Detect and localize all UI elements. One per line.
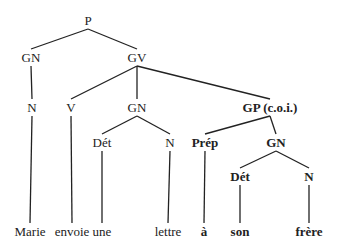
word-w1: Marie — [14, 224, 45, 239]
syntax-tree: PGNGVNVGNGP (c.o.i.)DétNPrépGNDétNMariee… — [0, 0, 343, 248]
word-w7: frère — [295, 224, 322, 239]
tree-edge-gv-gp — [137, 66, 270, 99]
node-n2: N — [165, 135, 175, 150]
node-det2: Dét — [230, 169, 250, 184]
node-gn3: GN — [266, 135, 286, 150]
node-prep: Prép — [192, 135, 219, 150]
tree-edge-gp-gn3 — [270, 116, 276, 134]
tree-edge-n2-w4 — [168, 151, 170, 223]
node-v: V — [66, 100, 76, 115]
tree-edge-v-w2 — [71, 116, 72, 223]
word-w2: envoie — [55, 224, 90, 239]
tree-edge-gn2-n2 — [137, 116, 170, 134]
tree-edge-gv-v — [71, 66, 137, 99]
node-det1: Dét — [93, 135, 112, 150]
tree-edge-prep-w5 — [204, 151, 205, 223]
tree-edge-n1-w1 — [30, 116, 32, 223]
tree-edge-p-gv — [88, 29, 137, 49]
node-gv: GV — [128, 50, 147, 65]
word-w4: lettre — [155, 224, 182, 239]
tree-edge-gn3-n3 — [276, 151, 309, 168]
tree-edge-gp-prep — [205, 116, 270, 134]
tree-edge-gn1-n1 — [31, 66, 32, 99]
node-n1: N — [27, 100, 37, 115]
node-gp: GP (c.o.i.) — [243, 100, 298, 115]
node-gn1: GN — [22, 50, 41, 65]
tree-edge-p-gn1 — [31, 29, 88, 49]
word-w3: une — [93, 224, 112, 239]
tree-edge-gn3-det2 — [240, 151, 276, 168]
word-w6: son — [231, 224, 251, 239]
tree-edge-gn2-det1 — [102, 116, 137, 134]
node-n3: N — [304, 169, 314, 184]
node-p: P — [84, 13, 91, 28]
node-gn2: GN — [128, 100, 147, 115]
word-w5: à — [201, 224, 208, 239]
